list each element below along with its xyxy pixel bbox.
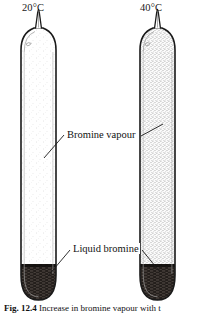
liquid-bromine-label: Liquid bromine	[72, 243, 140, 254]
left-tube	[18, 10, 59, 304]
temperature-label-right: 40°C	[140, 2, 162, 13]
figure-canvas	[0, 0, 209, 315]
figure-caption: Fig. 12.4 Increase in bromine vapour wit…	[4, 303, 207, 314]
right-tube	[137, 10, 178, 304]
left-tube-vapour	[21, 28, 57, 268]
figure-caption-number: Fig. 12.4	[4, 303, 37, 313]
bromine-vapour-label: Bromine vapour	[66, 129, 137, 140]
figure-caption-text: Increase in bromine vapour with t	[39, 303, 161, 313]
temperature-label-left: 20°C	[22, 2, 44, 13]
right-tube-vapour	[140, 28, 176, 268]
bromine-diffusion-figure: 20°C 40°C Bromine vapour Liquid bromine …	[0, 0, 209, 315]
